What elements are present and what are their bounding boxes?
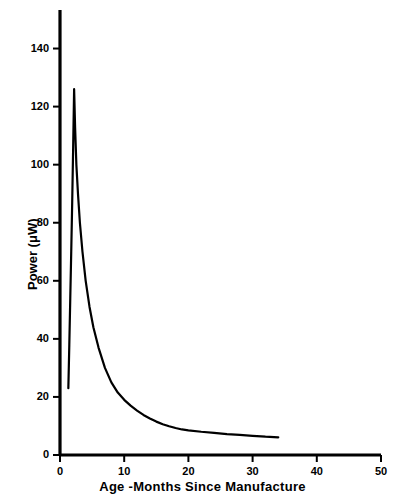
- x-axis-tick-label: 10: [104, 466, 144, 477]
- axes: [60, 10, 381, 455]
- y-axis-tick-label: 140: [31, 43, 49, 54]
- chart-figure: 020406080100120140 01020304050 Power (μW…: [0, 0, 405, 503]
- y-axis-tick-label: 20: [37, 391, 49, 402]
- x-axis-tick-label: 0: [40, 466, 80, 477]
- y-axis-title: Power (μW): [26, 218, 39, 290]
- y-axis-tick-label: 120: [31, 101, 49, 112]
- y-axis-tick-label: 0: [43, 449, 49, 460]
- power-vs-age-line-chart: [0, 0, 405, 503]
- data-series-line: [68, 89, 278, 437]
- y-axis-tick-label: 100: [31, 159, 49, 170]
- x-axis-tick-label: 30: [233, 466, 273, 477]
- x-axis-tick-label: 20: [168, 466, 208, 477]
- x-axis-tick-label: 40: [297, 466, 337, 477]
- x-axis-title: Age -Months Since Manufacture: [0, 480, 405, 493]
- x-axis-tick-label: 50: [361, 466, 401, 477]
- y-axis-tick-label: 40: [37, 333, 49, 344]
